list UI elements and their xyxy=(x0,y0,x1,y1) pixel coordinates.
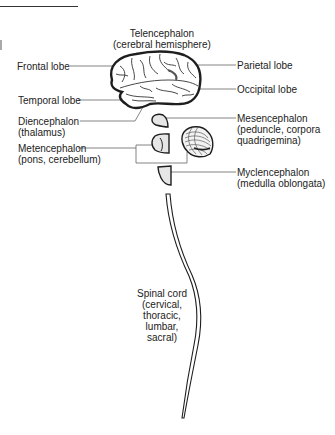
label-occipital-lobe: Occipital lobe xyxy=(237,84,297,95)
label-spinal-cord-l1: (cervical, xyxy=(137,299,187,310)
label-temporal-lobe: Temporal lobe xyxy=(18,95,81,106)
label-myelencephalon-title: Myclencephalon xyxy=(237,167,325,178)
label-mesencephalon-title: Mesencephalon xyxy=(237,113,320,124)
label-spinal-cord-l2: thoracic, xyxy=(137,310,187,321)
cerebellum-shape xyxy=(182,127,213,157)
pons-shape xyxy=(152,134,169,153)
diencephalon-leader xyxy=(80,107,143,121)
label-metencephalon-title: Metencephalon xyxy=(18,143,101,154)
label-spinal-cord-title: Spinal cord xyxy=(137,288,187,299)
label-diencephalon-sub: (thalamus) xyxy=(18,127,79,138)
label-spinal-cord-l4: sacral) xyxy=(137,332,187,343)
label-spinal-cord-l3: lumbar, xyxy=(137,321,187,332)
label-mesencephalon-sub1: (peduncle, corpora xyxy=(237,124,320,135)
label-metencephalon-sub: (pons, cerebellum) xyxy=(18,154,101,165)
cns-diagram: Telencephalon (cerebral hemisphere) Fron… xyxy=(0,0,335,435)
label-mesencephalon-sub2: quadrigemina) xyxy=(237,135,320,146)
label-telencephalon-title: Telencephalon xyxy=(113,28,211,39)
cerebrum-illustration xyxy=(111,52,200,108)
mesencephalon-shape xyxy=(152,114,168,127)
label-telencephalon: Telencephalon (cerebral hemisphere) xyxy=(113,28,211,50)
label-parietal-lobe: Parietal lobe xyxy=(237,60,293,71)
label-diencephalon-title: Diencephalon xyxy=(18,116,79,127)
label-metencephalon: Metencephalon (pons, cerebellum) xyxy=(18,143,101,165)
label-diencephalon: Diencephalon (thalamus) xyxy=(18,116,79,138)
label-frontal-lobe: Frontal lobe xyxy=(17,61,70,72)
label-myelencephalon: Myclencephalon (medulla oblongata) xyxy=(237,167,325,189)
label-telencephalon-sub: (cerebral hemisphere) xyxy=(113,39,211,50)
label-myelencephalon-sub: (medulla oblongata) xyxy=(237,178,325,189)
label-mesencephalon: Mesencephalon (peduncle, corpora quadrig… xyxy=(237,113,320,146)
medulla-shape xyxy=(158,166,171,185)
label-spinal-cord: Spinal cord (cervical, thoracic, lumbar,… xyxy=(137,288,187,343)
